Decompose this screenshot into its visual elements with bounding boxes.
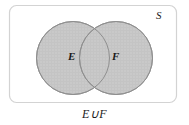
universal-set-label: S	[156, 10, 162, 21]
venn-diagram-figure: S E F E∪F	[0, 0, 189, 125]
set-e-label: E	[68, 51, 75, 62]
figure-caption: E∪F	[0, 108, 189, 120]
set-f-label: F	[112, 51, 119, 62]
